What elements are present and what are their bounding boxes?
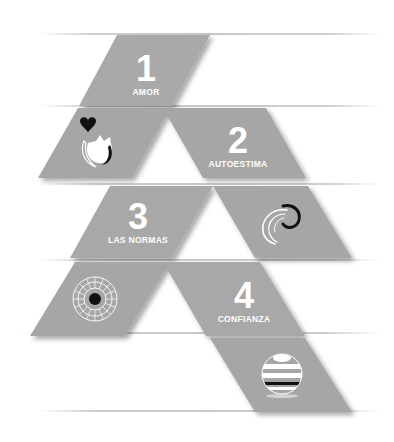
step-4-label: 4 CONFIANZA xyxy=(218,279,271,325)
step-title: AUTOESTIMA xyxy=(208,158,267,170)
step-title: CONFIANZA xyxy=(218,313,271,325)
step-number: 1 xyxy=(132,52,159,86)
step-2-label: 2 AUTOESTIMA xyxy=(208,124,267,170)
pyramid-diagram: 1 AMOR 2 AUTOESTIMA 3 LAS NORMAS 4 CONFI… xyxy=(0,0,394,442)
step-title: LAS NORMAS xyxy=(108,234,168,246)
sunburst-flower-icon xyxy=(70,274,120,324)
step-number: 4 xyxy=(218,279,271,313)
tiles-layer xyxy=(0,0,394,442)
step-number: 3 xyxy=(108,200,168,234)
step-1-label: 1 AMOR xyxy=(132,52,159,98)
striped-sphere-icon xyxy=(258,350,306,400)
heart-dove-icon xyxy=(70,115,120,171)
step-3-label: 3 LAS NORMAS xyxy=(108,200,168,246)
step-title: AMOR xyxy=(132,86,159,98)
step-number: 2 xyxy=(208,124,267,158)
swirl-icon xyxy=(255,198,311,246)
